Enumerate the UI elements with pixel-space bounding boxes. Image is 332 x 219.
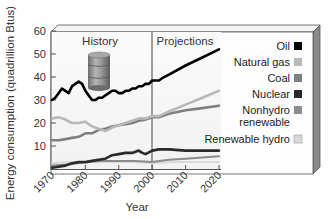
energy-consumption-chart: History Projections 102030405060 1970198… [0, 0, 332, 219]
y-axis-title: Energy consumption (quadrillion Btus) [4, 6, 16, 200]
oil-barrel-icon [88, 52, 110, 91]
y-tick-label: 10 [34, 140, 46, 152]
legend-label: Nuclear [252, 88, 290, 100]
x-axis-title: Year [125, 201, 148, 213]
y-tick-label: 60 [34, 25, 46, 37]
y-tick-label: 30 [34, 94, 46, 106]
y-tick-label: 40 [34, 71, 46, 83]
legend-swatch [294, 58, 302, 66]
legend-label-line2: renewable [239, 116, 290, 128]
legend-swatch [294, 106, 302, 114]
history-label: History [82, 35, 118, 47]
legend-item-renewable-hydro: Renewable hydro [204, 133, 302, 145]
y-tick-label: 20 [34, 117, 46, 129]
legend-label: Coal [267, 72, 290, 84]
legend-swatch [294, 90, 302, 98]
projections-label: Projections [157, 35, 214, 47]
legend-label: Nonhydro [242, 104, 290, 116]
legend-swatch [294, 135, 302, 143]
legend-label: Oil [277, 40, 290, 52]
legend-label: Natural gas [234, 56, 291, 68]
legend-label: Renewable hydro [204, 133, 290, 145]
y-tick-label: 50 [34, 48, 46, 60]
box-right-face [313, 25, 320, 174]
box-top-face [51, 25, 320, 32]
legend-swatch [294, 42, 302, 50]
legend-swatch [294, 74, 302, 82]
